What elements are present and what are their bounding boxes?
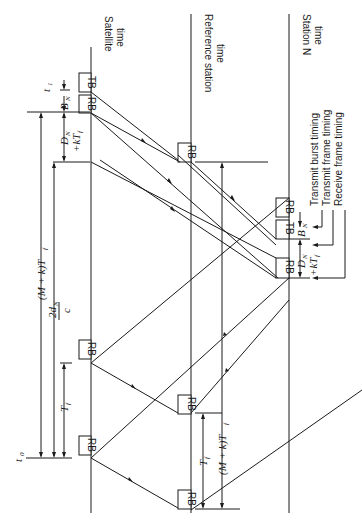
- legend-transmit-burst: Transmit burst timing: [309, 113, 320, 206]
- svg-text:TB: TB: [86, 76, 97, 89]
- svg-text:T: T: [58, 405, 70, 412]
- svg-text:RB: RB: [186, 397, 197, 411]
- svg-text:D: D: [295, 260, 307, 269]
- svg-text:+kT: +kT: [307, 257, 319, 276]
- signal-path: [91, 113, 180, 162]
- svg-text:Station N: Station N: [301, 14, 312, 55]
- svg-text:RB: RB: [86, 438, 97, 452]
- svg-text:f: f: [41, 247, 49, 250]
- svg-text:time: time: [215, 44, 226, 63]
- svg-text:Satellite: Satellite: [103, 16, 114, 52]
- svg-text:t: t: [12, 458, 24, 462]
- signal-path: [191, 300, 289, 413]
- receive-frame-pointer: [315, 210, 345, 278]
- svg-text:TB: TB: [284, 222, 295, 235]
- signal-path: [191, 162, 276, 239]
- timing-diagram-svg: Satellite time Reference station time St…: [0, 0, 362, 529]
- svg-text:f: f: [313, 254, 321, 257]
- svg-text:D: D: [58, 137, 70, 146]
- legend-transmit-frame: Transmit frame timing: [321, 110, 332, 206]
- svg-text:RB: RB: [86, 97, 97, 111]
- signal-path: [91, 198, 289, 363]
- tdma-timing-diagram: Satellite time Reference station time St…: [0, 0, 362, 529]
- svg-text:(M + k)T: (M + k)T: [35, 259, 48, 300]
- signal-path: [91, 458, 178, 508]
- svg-text:N: N: [301, 223, 309, 229]
- svg-text:RB: RB: [186, 145, 197, 159]
- signal-path: [91, 162, 276, 258]
- svg-text:RB: RB: [284, 260, 295, 274]
- svg-text:f: f: [203, 456, 211, 459]
- svg-text:f: f: [76, 130, 84, 133]
- svg-text:t: t: [40, 88, 52, 92]
- svg-text:B: B: [58, 103, 70, 110]
- svg-text:2d: 2d: [46, 307, 58, 319]
- svg-text:f: f: [64, 402, 72, 405]
- svg-text:RB: RB: [86, 342, 97, 356]
- station-n-axis-label: Station N time: [301, 14, 324, 55]
- legend-receive-frame: Receive frame timing: [333, 112, 344, 206]
- signal-path: [91, 278, 289, 458]
- reference-axis-label: Reference station time: [203, 14, 226, 92]
- svg-text:N: N: [64, 96, 72, 102]
- svg-text:RB: RB: [284, 200, 295, 214]
- svg-text:1: 1: [46, 83, 54, 87]
- svg-text:RB: RB: [186, 492, 197, 506]
- svg-text:time: time: [115, 28, 126, 47]
- transmit-burst-pointer: [315, 210, 322, 227]
- svg-text:f: f: [222, 422, 230, 425]
- svg-text:Reference station: Reference station: [203, 14, 214, 92]
- svg-text:T: T: [197, 459, 209, 466]
- svg-text:(M + k)T: (M + k)T: [216, 434, 229, 475]
- svg-text:c: c: [60, 308, 72, 313]
- svg-text:0: 0: [18, 452, 26, 456]
- svg-text:+kT: +kT: [70, 133, 82, 152]
- signal-path: [100, 160, 276, 278]
- svg-text:B: B: [295, 230, 307, 237]
- satellite-axis-label: Satellite time: [103, 16, 126, 52]
- signal-path: [91, 92, 178, 160]
- signal-path: [178, 155, 276, 245]
- svg-text:time: time: [313, 26, 324, 45]
- signal-path: [91, 113, 278, 278]
